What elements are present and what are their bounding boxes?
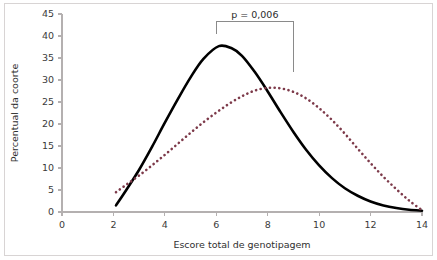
y-tick-label: 45 bbox=[42, 8, 54, 19]
y-tick-label: 10 bbox=[42, 162, 54, 173]
x-axis-tick-labels: 02468101214 bbox=[59, 219, 428, 230]
y-tick-label: 20 bbox=[42, 118, 54, 129]
x-tick-label: 8 bbox=[265, 219, 271, 230]
y-tick-label: 35 bbox=[42, 52, 54, 63]
chart-figure: 051015202530354045 02468101214 p = 0,006… bbox=[0, 0, 437, 260]
x-tick-label: 0 bbox=[59, 219, 65, 230]
axes bbox=[62, 14, 422, 212]
chart-plot-area: 051015202530354045 02468101214 p = 0,006… bbox=[0, 0, 437, 260]
x-tick-label: 10 bbox=[313, 219, 325, 230]
y-tick-label: 15 bbox=[42, 140, 54, 151]
x-axis-ticks bbox=[62, 212, 422, 216]
series-dotted-curve bbox=[116, 88, 422, 211]
y-axis-ticks bbox=[58, 14, 62, 212]
p-value-label: p = 0,006 bbox=[231, 9, 278, 20]
x-tick-label: 6 bbox=[213, 219, 219, 230]
series-solid-curve bbox=[116, 45, 422, 210]
y-tick-label: 30 bbox=[42, 74, 54, 85]
x-tick-label: 4 bbox=[162, 219, 168, 230]
data-curves bbox=[116, 45, 422, 210]
y-axis-tick-labels: 051015202530354045 bbox=[42, 8, 54, 217]
y-tick-label: 5 bbox=[48, 184, 54, 195]
y-tick-label: 25 bbox=[42, 96, 54, 107]
x-tick-label: 14 bbox=[416, 219, 428, 230]
x-tick-label: 2 bbox=[110, 219, 116, 230]
y-tick-label: 0 bbox=[48, 206, 54, 217]
x-axis-title: Escore total de genotipagem bbox=[173, 239, 310, 250]
y-axis-title: Percentual da coorte bbox=[9, 64, 20, 163]
y-tick-label: 40 bbox=[42, 30, 54, 41]
x-tick-label: 12 bbox=[365, 219, 377, 230]
p-value-annotation: p = 0,006 bbox=[216, 9, 293, 72]
